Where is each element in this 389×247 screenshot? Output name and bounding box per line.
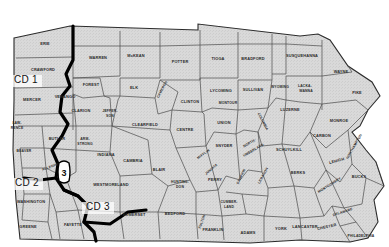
county-label: LANCASTER [292, 224, 317, 229]
county-label: WARREN [89, 55, 107, 60]
county-label: ADAMS [240, 230, 255, 235]
county-label: LAND [224, 205, 234, 209]
county-label: PHILADELPHIA [348, 234, 375, 238]
county-label: WYOMING [271, 85, 289, 89]
county-label: CAMBRIA [123, 158, 142, 163]
county-label: CRAWFORD [31, 67, 55, 72]
county-label: GREENE [19, 224, 37, 229]
county-label: SON [106, 114, 114, 118]
county-label: WANNA [299, 89, 313, 93]
county-label: McKEAN [127, 53, 144, 58]
county-label: RENCE [11, 126, 24, 130]
callout-number: 3 [61, 168, 66, 178]
county-label: PIKE [352, 90, 362, 95]
map-svg: ERIECRAWFORDMERCERLAW-RENCEBEAVERBUTLERV… [0, 0, 389, 247]
county-label: UNION [217, 120, 230, 125]
county-label: YORK [275, 226, 287, 231]
district-label-cd1: CD 1 [10, 74, 42, 87]
county-label: MERCER [23, 97, 41, 102]
county-label: WASHINGTON [17, 199, 45, 204]
callout-group: 3 [58, 161, 70, 183]
county-label: BERKS [291, 170, 306, 175]
district-label-cd2: CD 2 [11, 177, 43, 190]
county-label: FAYETTE [64, 222, 82, 227]
county-label: WAYNE [334, 69, 349, 74]
county-label: SOMERSET [122, 212, 146, 217]
county-label: MONTOUR [219, 101, 238, 105]
county-label: JEFFER- [102, 109, 117, 113]
county-label: SULLIVAN [243, 87, 263, 92]
county-label: BUCKS [352, 174, 367, 179]
county-label: CENTRE [177, 127, 194, 132]
county-label: CLINTON [181, 99, 199, 104]
county-label: STRONG [77, 142, 93, 146]
district-label-text: CD 3 [86, 201, 110, 212]
county-label: BEAVER [17, 149, 32, 153]
district-callout-marker: 3 [58, 161, 70, 183]
county-label: TIOGA [211, 56, 224, 61]
county-label: LAW- [12, 121, 21, 125]
county-label: MONROE [330, 118, 349, 123]
county-label: WESTMORELAND [93, 182, 129, 187]
county-label: HUNTING- [171, 180, 189, 184]
county-label: ARM- [80, 137, 89, 141]
county-label: ELK [130, 85, 138, 90]
district-label-cd3: CD 3 [82, 201, 114, 214]
county-label: SUSQUEHANNA [286, 53, 318, 58]
county-label: DON [176, 185, 184, 189]
county-label: LUZERNE [280, 107, 300, 112]
county-label: ERIE [40, 41, 50, 46]
county-label: FRANKLIN [202, 227, 223, 232]
county-label: BUTLER [49, 136, 66, 141]
pennsylvania-district-map: ERIECRAWFORDMERCERLAW-RENCEBEAVERBUTLERV… [0, 0, 389, 247]
county-label: SCHUYLKILL [276, 147, 303, 152]
county-label: CARBON [313, 133, 331, 138]
county-label: BRADFORD [241, 56, 265, 61]
county-label: PERRY [208, 177, 222, 182]
county-label: POTTER [172, 59, 189, 64]
county-label: CLEARFIELD [132, 122, 158, 127]
county-label: LYCOMING [210, 88, 232, 93]
county-label: VENANGO [55, 94, 76, 99]
county-label: INDIANA [97, 152, 114, 157]
district-label-text: CD 2 [15, 177, 39, 188]
county-label: LACKA- [298, 84, 312, 88]
county-label: SNYDER [215, 143, 232, 148]
county-label: CLARION [72, 108, 91, 113]
county-label: BEDFORD [165, 211, 185, 216]
county-label: FOREST [83, 82, 100, 87]
county-label: CUMBER- [220, 200, 237, 204]
district-label-text: CD 1 [14, 74, 38, 85]
county-label: BLAIR [153, 167, 166, 172]
